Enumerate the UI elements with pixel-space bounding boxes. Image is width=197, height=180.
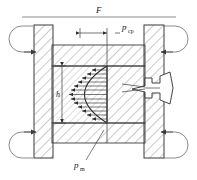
loop-top-left [9,26,33,52]
lower-platen [52,123,145,143]
height-label: h [56,90,60,99]
billet-cavity [107,66,145,123]
loop-bottom-left [9,132,33,158]
loop-top-right [164,26,188,52]
pcp-label: p cp [121,22,134,34]
upper-platen [52,45,145,66]
pcp-dimension [80,28,120,45]
pcp-label-sub: cp [128,28,134,34]
left-die-bar [34,25,53,158]
diagram-canvas: F p cp p m h [0,0,197,180]
pm-label-sub: m [80,166,85,172]
loop-bottom-right [164,132,188,158]
pcp-label-main: p [121,22,127,32]
force-label: F [95,5,102,15]
pm-label-main: p [73,160,79,170]
pm-label: p m [73,160,85,172]
forging-die-pressure-diagram: F p cp p m h [0,0,197,180]
